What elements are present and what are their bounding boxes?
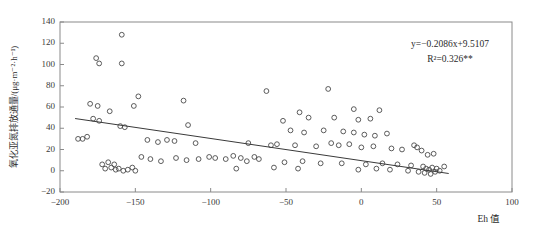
scatter-point [302,130,307,135]
y-tick-label: 40 [46,122,56,132]
scatter-point [94,56,99,61]
scatter-point [406,168,411,173]
x-tick-label: −100 [201,197,220,207]
scatter-point [97,61,102,66]
scatter-point [121,168,126,173]
scatter-point [339,161,344,166]
y-axis-ticks: −20020406080100120140 [41,16,64,196]
x-axis-ticks: −200−150−100−50050100 [51,188,520,207]
scatter-point [428,172,433,177]
scatter-point [145,138,150,143]
scatter-point [371,144,376,149]
scatter-point [95,104,100,109]
scatter-point [297,110,302,115]
scatter-point [351,107,356,112]
scatter-point [106,160,111,165]
scatter-point [388,167,393,172]
x-tick-label: −200 [51,197,70,207]
scatter-point [314,144,319,149]
scatter-point [362,132,367,137]
scatter-point [356,167,361,172]
scatter-point [116,166,121,171]
y-tick-label: 120 [42,37,56,47]
scatter-point [409,163,414,168]
x-tick-label: 100 [505,197,519,207]
scatter-point [282,160,287,165]
y-tick-label: −20 [41,186,56,196]
scatter-point [156,140,161,145]
x-tick-label: 50 [432,197,442,207]
scatter-point [377,108,382,113]
y-tick-label: 100 [42,59,56,69]
scatter-point [318,161,323,166]
scatter-point [329,141,334,146]
scatter-point [385,131,390,136]
scatter-point [326,87,331,92]
scatter-point [389,146,394,151]
scatter-point [341,129,346,134]
scatter-point [88,101,93,106]
scatter-point [351,130,356,135]
scatter-point [196,157,201,162]
scatter-point [213,156,218,161]
scatter-point [85,134,90,139]
scatter-point [119,32,124,37]
chart-container: −20020406080100120140 −200−150−100−50050… [0,0,549,239]
scatter-point [234,166,239,171]
x-axis-title: Eh 值 [478,213,501,224]
y-tick-label: 140 [42,16,56,26]
scatter-point [186,123,191,128]
scatter-point [252,155,257,160]
scatter-point [231,153,236,158]
scatter-point [336,143,341,148]
scatter-point [103,166,108,171]
scatter-point [246,141,251,146]
scatter-point [288,128,293,133]
scatter-point [148,157,153,162]
scatter-point [193,141,198,146]
scatter-point [356,117,361,122]
scatter-point [419,148,424,153]
scatter-point [422,170,427,175]
scatter-point [363,162,368,167]
scatter-point [281,118,286,123]
scatter-point [416,169,421,174]
scatter-point [131,104,136,109]
scatter-point [293,143,298,148]
x-tick-label: −50 [279,197,294,207]
y-axis-title: 氧化亚氮排放通量/(μg·m⁻²·h⁻¹) [8,46,19,169]
scatter-point [172,139,177,144]
scatter-point [256,157,261,162]
scatter-point [306,115,311,120]
scatter-point [321,128,326,133]
data-points [76,32,447,176]
scatter-point [332,115,337,120]
scatter-point [372,133,377,138]
scatter-plot-svg: −20020406080100120140 −200−150−100−50050… [0,0,549,239]
scatter-point [133,168,138,173]
scatter-point [238,156,243,161]
x-tick-label: 0 [359,197,364,207]
y-tick-label: 80 [46,80,56,90]
scatter-point [139,155,144,160]
scatter-point [359,145,364,150]
scatter-point [368,116,373,121]
scatter-point [112,162,117,167]
scatter-point [244,159,249,164]
scatter-point [207,155,212,160]
scatter-point [296,166,301,171]
r-squared-label: R²=0.326** [427,54,473,64]
scatter-point [347,142,352,147]
scatter-point [184,158,189,163]
regression-equation-label: y=−0.2086x+9.5107 [411,39,489,49]
scatter-point [165,138,170,143]
scatter-point [174,156,179,161]
scatter-point [113,167,118,172]
scatter-point [91,116,96,121]
scatter-point [442,164,447,169]
scatter-point [264,89,269,94]
scatter-point [125,167,130,172]
scatter-point [100,162,105,167]
scatter-point [119,61,124,66]
scatter-point [159,159,164,164]
